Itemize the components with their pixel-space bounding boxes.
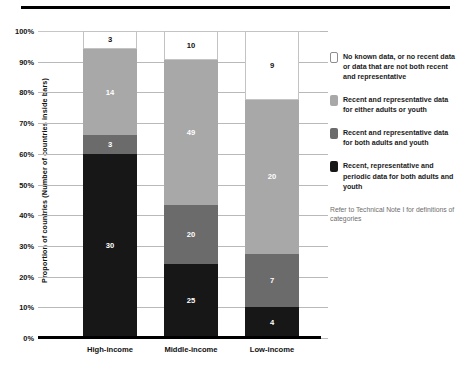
legend-item: Recent and representative data for eithe…: [330, 95, 458, 115]
legend-item-label: Recent and representative data for both …: [343, 128, 458, 148]
y-axis-tick-mark: [320, 62, 328, 63]
bar-segment: 4: [245, 307, 299, 338]
bar-segment-value-label: 10: [187, 42, 195, 50]
bar-segment-value-label: 7: [270, 277, 274, 285]
y-axis-tick-mark: [320, 154, 328, 155]
bar-segment-value-label: 20: [187, 231, 195, 239]
chart-legend: No known data, or no recent data or data…: [330, 52, 458, 224]
bar-segment-value-label: 3: [108, 36, 112, 44]
bar-segment-value-label: 30: [106, 242, 114, 250]
chart-plot-area: 100%90%80%70%60%50%40%30%20%10%0%3143301…: [38, 31, 320, 338]
bar-segment: 14: [83, 49, 137, 135]
y-axis-tick-label: 30%: [19, 241, 34, 250]
legend-item-label: Recent, representative and periodic data…: [343, 161, 458, 191]
bar-segment: 9: [245, 31, 299, 100]
legend-swatch-icon: [330, 95, 338, 106]
y-axis-tick-mark: [320, 185, 328, 186]
legend-swatch-icon: [330, 128, 338, 139]
bar-high-income: 314330: [83, 31, 137, 338]
y-axis-tick-mark: [320, 277, 328, 278]
legend-item: Recent and representative data for both …: [330, 128, 458, 148]
y-axis-tick-mark: [320, 338, 328, 339]
bar-middle-income: 10492025: [164, 31, 218, 338]
top-divider-rule: [21, 6, 450, 9]
y-axis-tick-label: 90%: [19, 57, 34, 66]
legend-swatch-icon: [330, 161, 338, 172]
bar-segment: 3: [83, 31, 137, 49]
y-axis-tick-mark: [320, 246, 328, 247]
gridlines-and-bars: 100%90%80%70%60%50%40%30%20%10%0%3143301…: [38, 31, 320, 338]
y-axis-tick-label: 0%: [23, 334, 34, 343]
bar-segment: 49: [164, 60, 218, 205]
legend-item: No known data, or no recent data or data…: [330, 52, 458, 82]
bar-segment: 25: [164, 264, 218, 338]
y-axis-tick-label: 50%: [19, 180, 34, 189]
bar-segment: 10: [164, 31, 218, 60]
bar-segment-value-label: 25: [187, 297, 195, 305]
y-axis-tick-mark: [320, 307, 328, 308]
legend-item: Recent, representative and periodic data…: [330, 161, 458, 191]
bar-low-income: 92074: [245, 31, 299, 338]
x-axis-baseline: [38, 336, 321, 339]
y-axis-tick-label: 60%: [19, 149, 34, 158]
bar-segment: 20: [245, 100, 299, 254]
bar-segment: 7: [245, 254, 299, 308]
y-axis-tick-mark: [320, 123, 328, 124]
legend-item-label: Recent and representative data for eithe…: [343, 95, 458, 115]
bar-segment-value-label: 20: [268, 173, 276, 181]
y-axis-tick-label: 20%: [19, 272, 34, 281]
y-axis-tick-label: 70%: [19, 119, 34, 128]
y-axis-tick-label: 100%: [15, 27, 34, 36]
x-axis-label-low-income: Low-income: [217, 345, 327, 354]
bar-segment-value-label: 3: [108, 141, 112, 149]
y-axis-tick-label: 40%: [19, 211, 34, 220]
legend-footnote: Refer to Technical Note I for definition…: [330, 205, 458, 224]
legend-swatch-icon: [330, 52, 338, 63]
bar-segment: 20: [164, 205, 218, 264]
y-axis-tick-label: 10%: [19, 303, 34, 312]
y-axis-tick-mark: [320, 215, 328, 216]
bar-segment: 30: [83, 154, 137, 338]
legend-item-label: No known data, or no recent data or data…: [343, 52, 458, 82]
y-axis-tick-label: 80%: [19, 88, 34, 97]
bar-segment: 3: [83, 135, 137, 153]
bar-segment-value-label: 49: [187, 129, 195, 137]
y-axis-tick-mark: [320, 92, 328, 93]
bar-segment-value-label: 4: [270, 319, 274, 327]
bar-segment-value-label: 9: [270, 62, 274, 70]
y-axis-tick-mark: [320, 31, 328, 32]
bar-segment-value-label: 14: [106, 89, 114, 97]
